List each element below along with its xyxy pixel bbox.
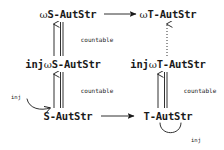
commutative-diagram: ωS-AutStr ωT-AutStr injωS-AutStr injωT-A… xyxy=(0,0,224,150)
omega-symbol: ω xyxy=(40,9,48,20)
edge-loop-t-autstr-inj xyxy=(160,123,181,133)
diagram-arrows-layer xyxy=(0,0,224,150)
edge-label-countable-lower-right: countable xyxy=(184,87,217,94)
node-inj-omega-s-autstr-label: S-AutStr xyxy=(52,58,101,70)
edge-label-inj-loop-left: inj xyxy=(11,94,21,101)
node-omega-s-autstr: ωS-AutStr xyxy=(40,8,97,21)
node-omega-t-autstr-label: T-AutStr xyxy=(147,8,196,20)
node-omega-t-autstr: ωT-AutStr xyxy=(140,8,197,21)
edge-label-inj-loop-right: inj xyxy=(191,137,201,144)
edge-loop-s-autstr-inj xyxy=(27,99,50,109)
edge-label-countable-upper-left: countable xyxy=(81,36,114,43)
edge-left-upper-vertical xyxy=(54,22,63,56)
node-s-autstr: S-AutStr xyxy=(44,110,93,122)
edge-left-lower-vertical xyxy=(54,72,63,108)
node-t-autstr-label: T-AutStr xyxy=(144,110,193,122)
node-s-autstr-label: S-AutStr xyxy=(44,110,93,122)
node-inj-omega-s-autstr: injωS-AutStr xyxy=(25,58,100,71)
node-omega-s-autstr-label: S-AutStr xyxy=(47,8,96,20)
edge-right-lower-vertical xyxy=(158,72,167,108)
inj-prefix: inj xyxy=(25,58,43,70)
node-inj-omega-t-autstr: injωT-AutStr xyxy=(130,58,205,71)
inj-prefix: inj xyxy=(130,58,148,70)
node-t-autstr: T-AutStr xyxy=(144,110,193,122)
edge-label-countable-lower-left: countable xyxy=(81,87,114,94)
omega-symbol: ω xyxy=(140,9,148,20)
node-inj-omega-t-autstr-label: T-AutStr xyxy=(157,58,206,70)
